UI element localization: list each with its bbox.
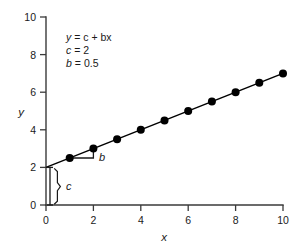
equation-line-3: b= 0.5 bbox=[66, 57, 99, 69]
chart-container: 10 8 6 4 2 0 0 2 4 6 8 10 x y bbox=[0, 0, 295, 246]
linear-regression-chart: 10 8 6 4 2 0 0 2 4 6 8 10 x y bbox=[0, 0, 295, 246]
y-tick-label: 0 bbox=[30, 199, 36, 211]
data-point bbox=[255, 79, 263, 87]
data-point bbox=[232, 88, 240, 96]
x-tick-label: 0 bbox=[43, 214, 49, 226]
x-tick-label: 6 bbox=[185, 214, 191, 226]
data-point bbox=[208, 98, 216, 106]
y-tick-label: 4 bbox=[30, 124, 36, 136]
data-point bbox=[89, 145, 97, 153]
equation-line-2: c= 2 bbox=[66, 44, 89, 56]
x-tick-label: 4 bbox=[138, 214, 144, 226]
data-point bbox=[279, 69, 287, 77]
x-axis-ticks bbox=[46, 205, 283, 211]
y-tick-label: 8 bbox=[30, 49, 36, 61]
x-tick-label: 10 bbox=[277, 214, 289, 226]
x-tick-label: 8 bbox=[233, 214, 239, 226]
intercept-brace bbox=[54, 168, 60, 204]
y-axis-ticks bbox=[40, 17, 46, 205]
equation-line-1: y= c + bx bbox=[65, 31, 112, 43]
x-axis-title: x bbox=[160, 231, 168, 243]
intercept-label: c bbox=[66, 180, 72, 192]
y-tick-label: 10 bbox=[24, 11, 36, 23]
y-axis-tick-labels: 10 8 6 4 2 0 bbox=[24, 11, 36, 211]
x-axis-tick-labels: 0 2 4 6 8 10 bbox=[43, 214, 289, 226]
slope-label: b bbox=[99, 151, 105, 163]
data-point bbox=[161, 116, 169, 124]
data-point bbox=[184, 107, 192, 115]
data-point bbox=[66, 154, 74, 162]
equation-annotation: y= c + bx c= 2 b= 0.5 bbox=[65, 31, 112, 69]
y-tick-label: 2 bbox=[30, 161, 36, 173]
x-tick-label: 2 bbox=[90, 214, 96, 226]
y-tick-label: 6 bbox=[30, 86, 36, 98]
data-point bbox=[113, 135, 121, 143]
y-axis-title: y bbox=[17, 106, 25, 118]
data-point bbox=[137, 126, 145, 134]
